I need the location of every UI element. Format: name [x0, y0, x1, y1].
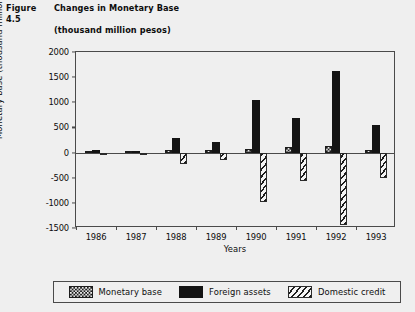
figure-container: Figure 4.5 Changes in Monetary Base (tho…	[0, 0, 415, 312]
y-tick-label: 500	[54, 122, 76, 132]
bar-domestic-credit-1989	[220, 153, 227, 161]
x-tick-mark	[76, 226, 77, 230]
legend-item: Monetary base	[69, 286, 163, 298]
y-tick-label: -500	[51, 173, 76, 183]
bar-domestic-credit-1991	[300, 153, 307, 181]
bar-foreign-assets-1991	[292, 118, 299, 152]
legend-swatch-solid-black	[179, 286, 203, 298]
x-tick-label-1993: 1993	[366, 232, 387, 242]
chart-legend: Monetary baseForeign assetsDomestic cred…	[53, 281, 401, 303]
y-tick-label: -1000	[46, 198, 76, 208]
y-axis-title: Monetary base (thousand million pesos)	[0, 0, 4, 139]
bar-domestic-credit-1988	[180, 153, 187, 165]
bar-monetary-base-1990	[245, 149, 252, 153]
x-tick-label-1991: 1991	[286, 232, 307, 242]
bar-foreign-assets-1993	[372, 125, 379, 153]
y-tick-label: -1500	[46, 223, 76, 233]
figure-subtitle: (thousand million pesos)	[54, 25, 179, 36]
bar-foreign-assets-1992	[332, 71, 339, 152]
bar-monetary-base-1988	[165, 150, 172, 153]
x-tick-label-1987: 1987	[126, 232, 147, 242]
y-tick-label: 1500	[48, 72, 76, 82]
y-tick-label: 2000	[48, 47, 76, 57]
legend-item: Domestic credit	[288, 286, 386, 298]
legend-label: Domestic credit	[318, 287, 386, 297]
bar-foreign-assets-1987	[132, 151, 139, 153]
x-tick-mark	[116, 226, 117, 230]
legend-swatch-checkered	[69, 286, 93, 298]
figure-title: Changes in Monetary Base	[54, 3, 179, 25]
legend-label: Foreign assets	[209, 287, 271, 297]
x-tick-label-1986: 1986	[86, 232, 107, 242]
bar-foreign-assets-1989	[212, 142, 219, 152]
bar-foreign-assets-1986	[92, 150, 99, 153]
bar-domestic-credit-1987	[140, 153, 147, 155]
x-tick-label-1992: 1992	[326, 232, 347, 242]
figure-title-block: Figure 4.5 Changes in Monetary Base (tho…	[6, 3, 179, 36]
bar-monetary-base-1987	[125, 151, 132, 153]
bar-domestic-credit-1986	[100, 153, 107, 155]
bar-foreign-assets-1988	[172, 138, 179, 152]
legend-item: Foreign assets	[179, 286, 271, 298]
legend-label: Monetary base	[99, 287, 163, 297]
bar-monetary-base-1993	[365, 150, 372, 153]
legend-swatch-diagonal-hatch	[288, 286, 312, 298]
figure-number: Figure 4.5	[6, 3, 54, 25]
x-tick-mark	[356, 226, 357, 230]
y-tick-label: 1000	[48, 97, 76, 107]
x-tick-mark	[156, 226, 157, 230]
x-tick-label-1990: 1990	[246, 232, 267, 242]
bar-monetary-base-1989	[205, 150, 212, 153]
bar-domestic-credit-1990	[260, 153, 267, 203]
bar-domestic-credit-1992	[340, 153, 347, 226]
bar-foreign-assets-1990	[252, 100, 259, 153]
x-tick-mark	[196, 226, 197, 230]
bar-domestic-credit-1993	[380, 153, 387, 178]
bar-monetary-base-1986	[85, 151, 92, 153]
x-tick-label-1988: 1988	[166, 232, 187, 242]
x-tick-mark	[236, 226, 237, 230]
bar-monetary-base-1991	[285, 147, 292, 153]
bar-monetary-base-1992	[325, 146, 332, 153]
x-tick-label-1989: 1989	[206, 232, 227, 242]
x-tick-mark	[276, 226, 277, 230]
y-tick-label: 0	[64, 148, 76, 158]
plot-area: 2000150010005000-500-1000-1500 198619871…	[75, 51, 395, 227]
x-tick-mark	[316, 226, 317, 230]
x-axis-title: Years	[224, 244, 247, 254]
